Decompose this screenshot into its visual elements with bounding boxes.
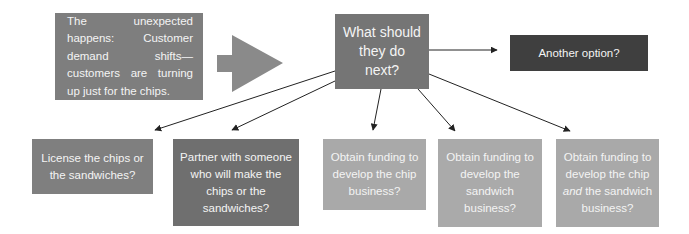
option-fund-both-text: Obtain funding to develop the chip and t… bbox=[562, 149, 653, 217]
option-partner-text: Partner with someone who will make the c… bbox=[179, 149, 293, 217]
block-arrow-icon bbox=[217, 35, 283, 92]
start-box: The unexpected happens: Customer demand … bbox=[55, 13, 203, 100]
option-license: License the chips or the sandwiches? bbox=[32, 139, 153, 194]
emphasis-and: and bbox=[563, 185, 582, 197]
option-fund-sandwich: Obtain funding to develop the sandwich b… bbox=[438, 139, 542, 227]
option-fund-sandwich-text: Obtain funding to develop the sandwich b… bbox=[444, 149, 536, 217]
option-fund-both: Obtain funding to develop the chip and t… bbox=[556, 139, 659, 227]
option-license-text: License the chips or the sandwiches? bbox=[38, 150, 147, 184]
option-fund-chip: Obtain funding to develop the chip busin… bbox=[323, 139, 426, 210]
option-another-text: Another option? bbox=[538, 45, 619, 62]
option-another: Another option? bbox=[510, 35, 648, 71]
start-box-text: The unexpected happens: Customer demand … bbox=[67, 13, 193, 101]
decision-box-text: What should they do next? bbox=[341, 23, 423, 80]
option-partner: Partner with someone who will make the c… bbox=[173, 139, 299, 226]
option-fund-chip-text: Obtain funding to develop the chip busin… bbox=[329, 149, 420, 200]
decision-box: What should they do next? bbox=[335, 14, 429, 89]
